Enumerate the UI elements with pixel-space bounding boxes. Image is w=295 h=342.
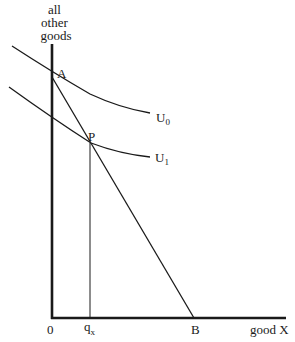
u1-label: U1 (155, 150, 169, 167)
y-axis-label: all other goods (40, 2, 71, 43)
x-axis-label: good X (250, 322, 289, 337)
point-a-label: A (57, 66, 67, 81)
u0-label: U0 (156, 110, 170, 127)
indifference-curve-u0 (12, 46, 150, 113)
budget-line (52, 77, 194, 318)
origin-label: 0 (47, 322, 54, 337)
diagram-canvas: all other goods A P B U0 U1 0 qx good X (0, 0, 295, 342)
indifference-curve-u1 (9, 87, 150, 157)
point-b-label: B (191, 322, 200, 337)
point-p-label: P (88, 129, 95, 144)
qx-label: qx (84, 319, 96, 337)
